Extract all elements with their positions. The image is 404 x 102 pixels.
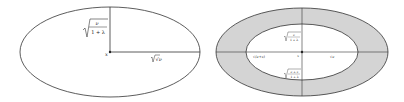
left-ellipse-diagram: x ν 1 + λ √ν — [20, 7, 200, 97]
svg-text:1 + λ: 1 + λ — [91, 29, 106, 35]
center-label: x — [105, 51, 108, 57]
center-point — [301, 51, 303, 53]
svg-text:√ν: √ν — [156, 56, 162, 62]
center-label: x — [297, 54, 299, 58]
left-label: √(ν+ε) — [253, 55, 266, 59]
diagram-canvas: x ν 1 + λ √ν x ν 1 + λ ν + — [0, 0, 404, 102]
svg-text:ν: ν — [95, 20, 98, 26]
svg-text:ν: ν — [293, 33, 295, 37]
right-annulus-diagram: x ν 1 + λ ν + ε 1 + λ √(ν+ε) √ν — [216, 8, 388, 96]
svg-text:1 + λ: 1 + λ — [290, 38, 298, 42]
center-point — [109, 51, 111, 53]
svg-text:ν + ε: ν + ε — [291, 70, 299, 74]
svg-text:1 + λ: 1 + λ — [290, 75, 298, 79]
